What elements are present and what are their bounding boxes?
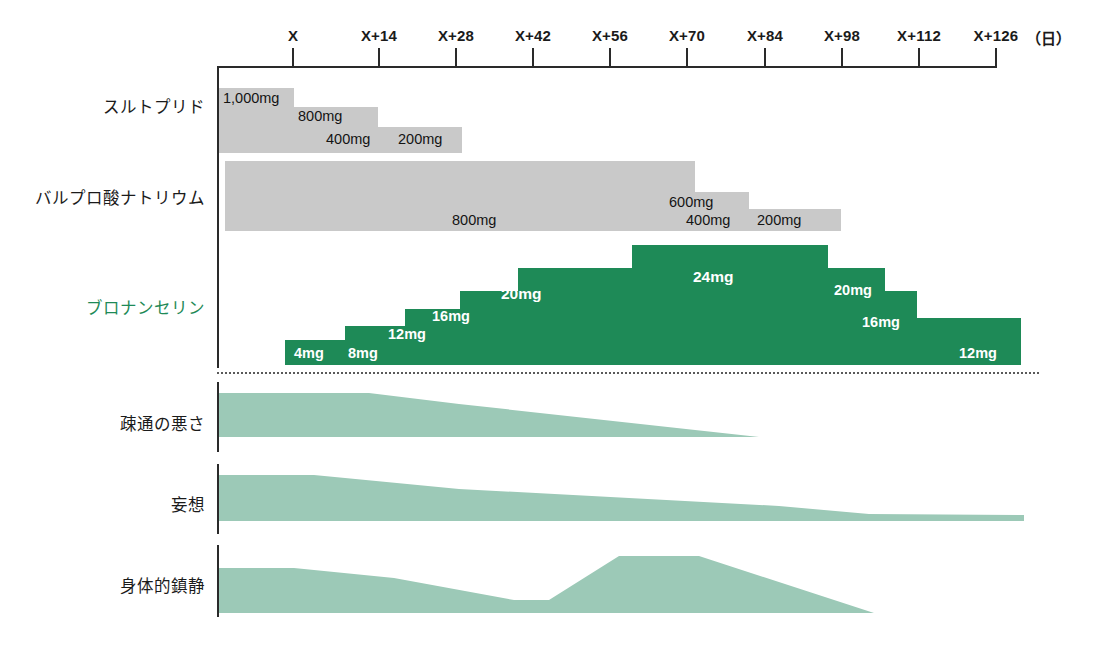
symptom-label-delusion: 妄想 <box>171 492 205 516</box>
bar-value-blonanserin-12mg: 12mg <box>388 326 426 342</box>
drug-label-sultopride: スルトプリド <box>103 94 205 118</box>
x-axis-line <box>217 66 997 68</box>
axis-tick-label-6: X+84 <box>747 27 783 44</box>
axis-tick-label-1: X+14 <box>361 27 397 44</box>
axis-tick-label-2: X+28 <box>438 27 474 44</box>
axis-tick-label-4: X+56 <box>592 27 628 44</box>
symptom-area-delusion <box>219 470 1024 530</box>
axis-tick <box>532 48 534 67</box>
axis-unit-label: （日） <box>1026 27 1071 48</box>
axis-tick-label-9: X+126 <box>974 27 1019 44</box>
bar-value-blonanserin-4mg: 4mg <box>294 345 324 361</box>
bar-blonanserin-24mg <box>632 245 828 365</box>
axis-tick <box>609 48 611 67</box>
bar-blonanserin-20mg-up <box>518 268 632 365</box>
axis-tick-label-5: X+70 <box>669 27 705 44</box>
bar-value-sultopride-1000mg: 1,000mg <box>223 90 279 106</box>
axis-tick <box>918 48 920 67</box>
bar-value-blonanserin-24mg: 24mg <box>693 268 734 286</box>
axis-tick <box>686 48 688 67</box>
axis-tick <box>841 48 843 67</box>
symptom-label-sedation: 身体的鎮静 <box>120 573 205 597</box>
bar-value-valproate-200mg: 200mg <box>757 212 801 228</box>
treatment-timeline-chart: X X+14 X+28 X+42 X+56 X+70 X+84 X+98 X+1… <box>0 0 1097 645</box>
axis-tick-label-3: X+42 <box>515 27 551 44</box>
axis-tick <box>455 48 457 67</box>
bar-value-valproate-600mg: 600mg <box>669 194 713 210</box>
axis-tick-label-7: X+98 <box>824 27 860 44</box>
axis-tick <box>292 48 294 67</box>
bar-value-blonanserin-12mg-down: 12mg <box>959 345 997 361</box>
bar-value-blonanserin-8mg: 8mg <box>348 345 378 361</box>
bar-value-blonanserin-16mg-down: 16mg <box>862 314 900 330</box>
bar-value-sultopride-200mg: 200mg <box>398 131 442 147</box>
symptom-label-communication: 疎通の悪さ <box>120 411 205 435</box>
axis-tick <box>995 48 997 67</box>
bar-value-valproate-800mg: 800mg <box>452 212 496 228</box>
drug-label-blonanserin: ブロナンセリン <box>86 295 205 319</box>
section-divider <box>217 372 1039 374</box>
axis-tick <box>764 48 766 67</box>
bar-value-blonanserin-20mg-down: 20mg <box>834 282 872 298</box>
bar-value-sultopride-800mg: 800mg <box>298 108 342 124</box>
bar-value-valproate-400mg: 400mg <box>686 212 730 228</box>
symptom-area-communication <box>219 388 769 448</box>
bar-value-sultopride-400mg: 400mg <box>326 131 370 147</box>
bar-value-blonanserin-20mg-up: 20mg <box>501 285 542 303</box>
axis-tick-label-0: X <box>288 27 298 44</box>
symptom-area-sedation <box>219 548 1024 620</box>
axis-tick <box>378 48 380 67</box>
axis-tick-label-8: X+112 <box>897 27 941 44</box>
bar-value-blonanserin-16mg: 16mg <box>432 308 470 324</box>
drug-label-valproate: バルプロ酸ナトリウム <box>35 185 205 209</box>
